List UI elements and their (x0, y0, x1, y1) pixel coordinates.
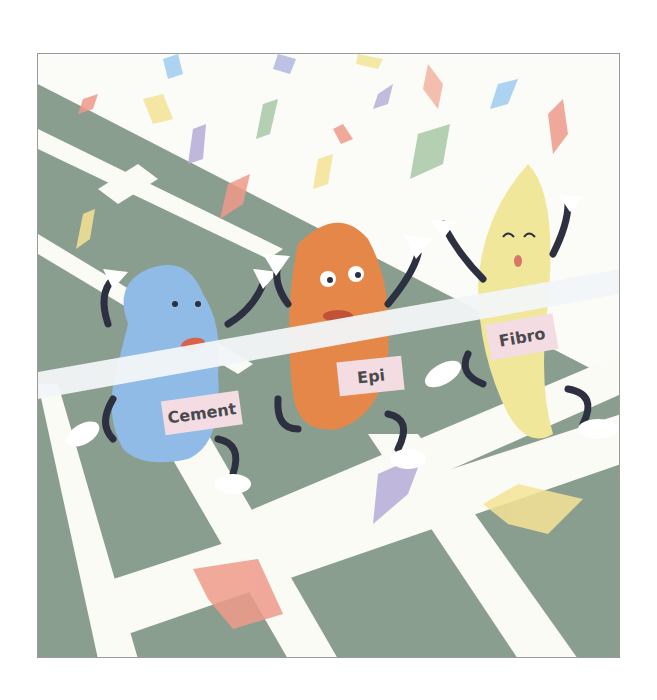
race-illustration: Cement Epi Fibro (38, 54, 620, 658)
bib-label-epi: Epi (356, 366, 386, 388)
illustration-frame: Cement Epi Fibro (37, 53, 620, 658)
bib-epi: Epi (336, 356, 404, 397)
